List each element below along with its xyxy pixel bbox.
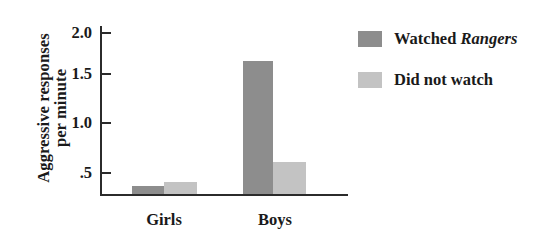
y-axis-tick-0-5	[102, 172, 111, 174]
y-axis-tick-label-2-0: 2.0	[32, 25, 92, 42]
x-axis-label-boys: Boys	[240, 212, 310, 229]
y-axis-tick-label-0-5: .5	[32, 165, 92, 182]
legend-light-swatch-icon	[358, 72, 382, 88]
chart-legend: Watched Rangers Did not watch	[358, 30, 517, 112]
legend-item-watched-rangers: Watched Rangers	[358, 30, 517, 48]
y-axis-tick-1-0	[102, 122, 111, 124]
legend-item-did-not-watch: Did not watch	[358, 71, 517, 89]
legend-label-watched-rangers-italic: Rangers	[460, 29, 517, 48]
legend-label-watched-rangers-plain: Watched	[394, 29, 460, 48]
y-axis-tick-label-1-0: 1.0	[32, 115, 92, 132]
bar-boys-did-not-watch	[273, 162, 306, 194]
y-axis-tick-label-1-5: 1.5	[32, 66, 92, 83]
legend-label-did-not-watch: Did not watch	[394, 72, 493, 89]
bar-girls-watched	[132, 186, 164, 194]
y-axis-line	[100, 26, 102, 196]
legend-dark-swatch-icon	[358, 31, 382, 47]
bar-chart-figure: Aggressive responses per minute 2.0 1.5 …	[0, 0, 535, 249]
x-axis-label-girls: Girls	[128, 212, 200, 229]
bar-boys-watched	[243, 61, 273, 194]
x-axis-line	[100, 194, 348, 196]
legend-label-did-not-watch-plain: Did not watch	[394, 70, 493, 89]
bar-girls-did-not-watch	[164, 182, 197, 194]
legend-label-watched-rangers: Watched Rangers	[394, 31, 517, 48]
y-axis-tick-2-0	[102, 32, 111, 34]
y-axis-tick-1-5	[102, 73, 111, 75]
